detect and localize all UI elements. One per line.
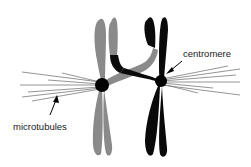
black-chromosome — [110, 17, 168, 157]
chromosome-diagram: centromere microtubules — [0, 0, 251, 167]
microtubules-left — [20, 72, 100, 101]
black-crossover-segment — [110, 55, 124, 73]
black-chromatid-2-top — [159, 17, 168, 80]
gray-chromatid-2-bottom — [103, 88, 112, 156]
centromere-arrow — [166, 61, 182, 74]
gray-chromatid-1-top — [95, 19, 106, 84]
centromere-left — [95, 78, 109, 92]
black-chromatid-2-bottom — [159, 86, 167, 157]
microtubules-arrow — [50, 95, 59, 115]
microtubules-label: microtubules — [13, 121, 67, 132]
centromere-label: centromere — [183, 48, 231, 59]
centromere-right — [155, 75, 167, 87]
microtubules-right — [162, 66, 240, 95]
black-chromatid-1-top — [144, 17, 155, 48]
gray-chromatid-1-bottom — [93, 88, 103, 155]
black-chromatid-1-bottom — [145, 86, 160, 156]
gray-chromatid-2-top — [109, 18, 118, 56]
